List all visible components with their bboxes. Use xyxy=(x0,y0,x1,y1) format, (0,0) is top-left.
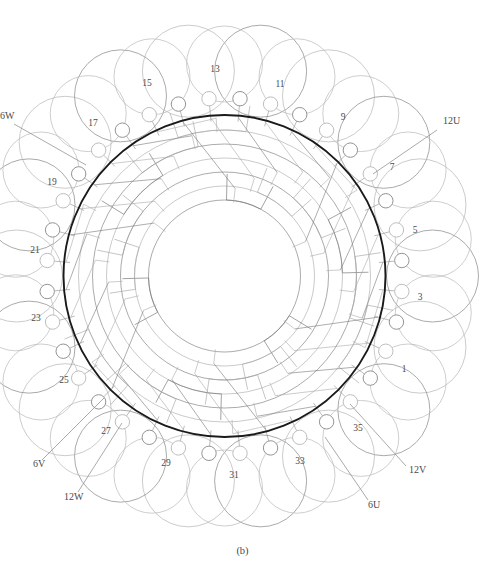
phase-label-6u: 6U xyxy=(368,499,381,510)
terminal-dots xyxy=(40,91,409,460)
slot-label-25: 25 xyxy=(59,375,69,385)
terminal-dot xyxy=(319,123,333,137)
terminal-dot xyxy=(91,143,105,157)
terminal-dot xyxy=(343,143,357,157)
terminal-dot xyxy=(56,194,70,208)
slot-label-11: 11 xyxy=(275,79,284,89)
terminal-dot xyxy=(263,97,277,111)
figure-root: 1357911131517192123252729313335 12U12V6U… xyxy=(0,0,485,587)
terminal-dot xyxy=(91,395,105,409)
slot-label-19: 19 xyxy=(47,177,57,187)
terminal-dot xyxy=(319,415,333,429)
terminal-dot xyxy=(56,344,70,358)
terminal-dot xyxy=(171,97,185,111)
figure-caption: (b) xyxy=(0,545,485,556)
phase-lead-line-12v xyxy=(350,404,406,466)
slot-label-35: 35 xyxy=(353,423,363,433)
phase-label-12w: 12W xyxy=(64,491,84,502)
terminal-dot xyxy=(395,253,409,267)
terminal-dot xyxy=(142,107,156,121)
phase-label-6w: 6W xyxy=(0,110,15,121)
slot-label-5: 5 xyxy=(413,225,418,235)
slot-label-23: 23 xyxy=(31,313,41,323)
terminal-dot xyxy=(142,430,156,444)
terminal-dot xyxy=(233,91,247,105)
phase-lead-line-12u xyxy=(373,130,437,174)
phase-label-6v: 6V xyxy=(33,458,46,469)
slot-label-27: 27 xyxy=(101,426,111,436)
slot-label-9: 9 xyxy=(341,112,346,122)
terminal-dot xyxy=(171,441,185,455)
terminal-dot xyxy=(293,430,307,444)
terminal-dot xyxy=(71,371,85,385)
terminal-dot xyxy=(389,223,403,237)
slot-label-3: 3 xyxy=(418,292,423,302)
terminal-dot xyxy=(71,167,85,181)
slot-label-17: 17 xyxy=(88,118,98,128)
slot-label-21: 21 xyxy=(30,245,40,255)
phase-label-12u: 12U xyxy=(443,115,461,126)
slot-label-29: 29 xyxy=(161,458,171,468)
terminal-dot xyxy=(202,446,216,460)
terminal-dot xyxy=(389,315,403,329)
slot-label-31: 31 xyxy=(229,470,239,480)
terminal-dot xyxy=(343,395,357,409)
terminal-dot xyxy=(379,344,393,358)
terminal-dot xyxy=(379,194,393,208)
terminal-dot xyxy=(40,253,54,267)
terminal-dot xyxy=(40,284,54,298)
slot-label-33: 33 xyxy=(295,456,305,466)
terminal-dot xyxy=(233,446,247,460)
terminal-dot xyxy=(363,167,377,181)
terminal-dot xyxy=(363,371,377,385)
slot-label-1: 1 xyxy=(402,364,407,374)
terminal-dot xyxy=(115,123,129,137)
slot-label-13: 13 xyxy=(210,64,220,74)
slot-label-7: 7 xyxy=(390,162,395,172)
terminal-dot xyxy=(395,284,409,298)
phase-lead-line-12w xyxy=(78,423,122,492)
stator-winding-diagram: 1357911131517192123252729313335 12U12V6U… xyxy=(0,0,485,587)
terminal-dot xyxy=(202,91,216,105)
phase-label-12v: 12V xyxy=(409,464,427,475)
terminal-dot xyxy=(263,441,277,455)
terminal-dot xyxy=(293,107,307,121)
slot-label-15: 15 xyxy=(142,78,152,88)
terminal-dot xyxy=(115,415,129,429)
terminal-dot xyxy=(45,315,59,329)
terminal-dot xyxy=(45,223,59,237)
